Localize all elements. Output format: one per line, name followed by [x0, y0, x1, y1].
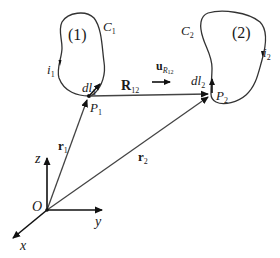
origin-label: O [32, 199, 42, 214]
r12-label: R12 [121, 78, 139, 95]
unit-vector-label: uR12 [156, 59, 174, 75]
current-i1-label: i1 [47, 62, 55, 79]
r2-vector [47, 97, 208, 210]
curve-c2-label: C2 [181, 23, 194, 40]
r12-vector [90, 94, 208, 96]
p1-label: P1 [89, 100, 102, 117]
loop-2: (2) C2 i2 dl2 P2 [181, 11, 271, 105]
position-vectors: r1 r2 R12 uR12 [47, 59, 208, 210]
y-axis-label: y [93, 214, 102, 229]
r1-label: r1 [58, 138, 68, 155]
loop-2-region-label: (2) [232, 24, 251, 42]
r2-label: r2 [138, 149, 148, 166]
loop-1: (1) C1 i1 dl1 P1 [47, 13, 116, 117]
origin-point [45, 208, 49, 212]
p2-label: P2 [215, 88, 228, 105]
loop-1-region-label: (1) [68, 26, 87, 44]
x-axis-label: x [19, 238, 27, 253]
x-axis [13, 210, 47, 238]
r1-vector [47, 100, 87, 210]
z-axis-label: z [34, 151, 41, 166]
current-i2-label: i2 [263, 45, 271, 62]
diagram-figure: (1) C1 i1 dl1 P1 (2) C2 i2 dl2 P2 r1 r2 … [0, 0, 280, 258]
dl1-label: dl1 [82, 80, 96, 97]
dl2-label: dl2 [191, 73, 205, 90]
curve-c1-label: C1 [103, 19, 116, 36]
